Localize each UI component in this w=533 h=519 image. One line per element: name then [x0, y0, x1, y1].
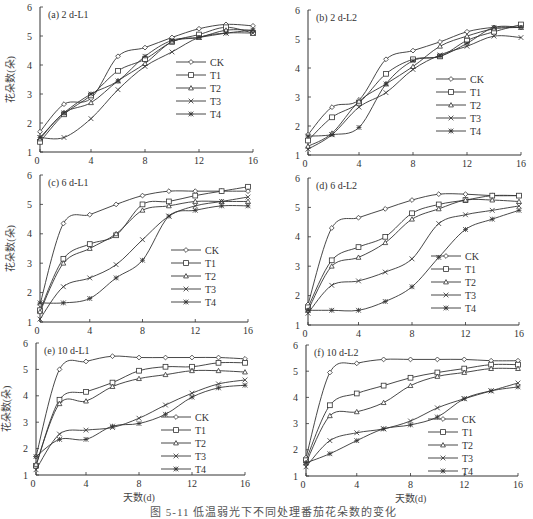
x-tick-label: 8 — [143, 155, 148, 166]
x-axis-label: 天数(d) — [395, 492, 427, 505]
y-axis-label: 花朵数(朵) — [0, 386, 13, 433]
series-t1 — [38, 25, 256, 144]
panel-title: (a) 2 d-L1 — [48, 9, 89, 21]
y-tick-label: 4 — [27, 228, 32, 239]
legend: CKT1T2T3T4 — [161, 412, 210, 475]
series-t2 — [306, 25, 524, 148]
y-tick-label: 5 — [27, 199, 32, 210]
legend-label: T3 — [205, 284, 216, 295]
figure-caption: 图 5-11 低温弱光下不同处理番茄花朵数的变化 — [150, 503, 397, 519]
panel-c: 1234560481216(c) 6 d-L1花朵数(朵)CKT1T2T3T4 — [4, 170, 253, 337]
legend-label: T1 — [195, 425, 206, 436]
series-t2 — [38, 28, 256, 141]
panel-title: (f) 10 d-L2 — [314, 347, 358, 359]
y-tick-label: 3 — [23, 417, 28, 428]
x-tick-label: 8 — [410, 328, 415, 339]
x-tick-label: 4 — [354, 479, 359, 490]
legend-label: T1 — [465, 264, 476, 275]
x-tick-label: 16 — [243, 325, 253, 336]
x-tick-label: 12 — [187, 478, 197, 489]
legend-label: T2 — [205, 271, 216, 282]
panel-a: 1234560481216(a) 2 d-L1花朵数(朵)CKT1T2T3T4 — [4, 2, 258, 167]
y-tick-label: 2 — [27, 287, 32, 298]
legend: CKT1T2T3T4 — [428, 414, 477, 477]
series-ck — [304, 357, 521, 460]
legend-label: T4 — [210, 109, 221, 120]
legend-label: T2 — [462, 440, 473, 451]
legend-label: T2 — [465, 277, 476, 288]
y-tick-label: 1 — [27, 317, 32, 328]
series-ck — [306, 192, 522, 307]
y-tick-label: 3 — [27, 89, 32, 100]
legend: CKT1T2T3T4 — [171, 245, 220, 308]
legend-label: CK — [205, 245, 220, 256]
panel-d: 1234560481216(d) 6 d-L2CKT1T2T3T4 — [295, 173, 524, 340]
x-tick-label: 16 — [248, 155, 258, 166]
x-tick-label: 0 — [35, 325, 40, 336]
y-tick-label: 1 — [295, 320, 300, 331]
x-tick-label: 12 — [462, 158, 472, 169]
y-tick-label: 1 — [27, 147, 32, 158]
x-tick-label: 0 — [31, 478, 36, 489]
legend-label: T4 — [465, 303, 476, 314]
series-t1 — [304, 362, 521, 462]
series-t4 — [304, 385, 521, 466]
y-tick-label: 5 — [27, 31, 32, 42]
legend-label: T2 — [195, 438, 206, 449]
series-t1 — [306, 22, 524, 143]
x-tick-label: 8 — [408, 479, 413, 490]
x-tick-label: 12 — [194, 155, 204, 166]
y-tick-label: 1 — [295, 150, 300, 161]
x-tick-label: 16 — [516, 158, 526, 169]
y-tick-label: 4 — [27, 60, 32, 71]
legend-label: CK — [470, 74, 485, 85]
legend-label: CK — [195, 412, 210, 423]
legend-label: T3 — [465, 290, 476, 301]
y-tick-label: 3 — [295, 92, 300, 103]
y-tick-label: 5 — [293, 366, 298, 377]
y-tick-label: 5 — [23, 364, 28, 375]
y-tick-label: 6 — [27, 2, 32, 13]
panel-title: (e) 10 d-L1 — [44, 345, 90, 357]
y-tick-label: 6 — [23, 338, 28, 349]
y-tick-label: 6 — [27, 170, 32, 181]
legend: CKT1T2T3T4 — [431, 251, 480, 314]
legend-label: T2 — [210, 83, 221, 94]
series-t1 — [34, 360, 248, 468]
x-tick-label: 4 — [357, 158, 362, 169]
x-tick-label: 8 — [137, 478, 142, 489]
series-ck — [306, 25, 524, 137]
x-tick-label: 12 — [190, 325, 200, 336]
series-t2 — [304, 366, 521, 465]
legend: CKT1T2T3T4 — [176, 57, 225, 120]
legend: CKT1T2T3T4 — [436, 74, 485, 137]
x-tick-label: 16 — [514, 328, 524, 339]
series-t4 — [38, 28, 256, 140]
legend-label: CK — [210, 57, 225, 68]
y-tick-label: 1 — [23, 470, 28, 481]
panel-title: (d) 6 d-L2 — [316, 180, 357, 192]
x-tick-label: 0 — [303, 158, 308, 169]
legend-label: T1 — [205, 258, 216, 269]
x-tick-label: 0 — [301, 479, 306, 490]
y-tick-label: 5 — [295, 202, 300, 213]
y-tick-label: 6 — [293, 340, 298, 351]
x-tick-label: 12 — [459, 479, 469, 490]
legend-label: T3 — [462, 453, 473, 464]
x-tick-label: 16 — [513, 479, 523, 490]
legend-label: T4 — [462, 466, 473, 477]
y-tick-label: 2 — [293, 444, 298, 455]
series-ck — [38, 22, 256, 134]
legend-label: T1 — [470, 87, 481, 98]
y-tick-label: 3 — [27, 258, 32, 269]
x-tick-label: 8 — [411, 158, 416, 169]
legend-label: T1 — [462, 427, 473, 438]
y-tick-label: 2 — [23, 443, 28, 454]
x-tick-label: 16 — [240, 478, 250, 489]
legend-label: T3 — [210, 96, 221, 107]
x-tick-label: 4 — [89, 155, 94, 166]
legend-label: T3 — [470, 113, 481, 124]
y-tick-label: 5 — [295, 34, 300, 45]
panel-b: 1234560481216(b) 2 d-L2CKT1T2T3T4 — [295, 5, 526, 170]
x-tick-label: 4 — [87, 325, 92, 336]
